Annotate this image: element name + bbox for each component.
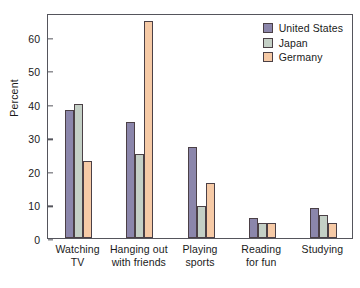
- y-tick-label: 40: [16, 100, 40, 112]
- x-category-label-line: Studying: [285, 243, 359, 256]
- legend-swatch-icon: [263, 38, 273, 48]
- bar[interactable]: [144, 21, 153, 238]
- bar[interactable]: [126, 122, 135, 238]
- bar[interactable]: [188, 147, 197, 238]
- bar[interactable]: [135, 154, 144, 238]
- y-tick-label: 60: [16, 33, 40, 45]
- bar[interactable]: [319, 215, 328, 239]
- legend-label: Japan: [279, 37, 308, 49]
- bar-group: [65, 15, 92, 238]
- bar[interactable]: [83, 161, 92, 238]
- y-tick-label: 0: [16, 234, 40, 246]
- bar[interactable]: [197, 206, 206, 238]
- legend-label: United States: [279, 22, 343, 34]
- legend-swatch-icon: [263, 23, 273, 33]
- y-tick-mark: [48, 239, 53, 240]
- bar[interactable]: [74, 104, 83, 238]
- bar[interactable]: [310, 208, 319, 238]
- bar[interactable]: [249, 218, 258, 238]
- plot-area: 0102030405060 United StatesJapanGermany: [47, 14, 353, 239]
- bar-group: [188, 15, 215, 238]
- y-tick-label: 20: [16, 167, 40, 179]
- legend-item[interactable]: United States: [263, 22, 343, 34]
- legend-item[interactable]: Japan: [263, 37, 343, 49]
- bar[interactable]: [206, 183, 215, 238]
- legend: United StatesJapanGermany: [263, 22, 343, 63]
- bar[interactable]: [328, 223, 337, 238]
- x-category-label-line: for fun: [224, 256, 298, 269]
- y-tick-label: 10: [16, 200, 40, 212]
- legend-item[interactable]: Germany: [263, 51, 343, 63]
- legend-label: Germany: [279, 51, 323, 63]
- y-tick-label: 30: [16, 133, 40, 145]
- bar[interactable]: [258, 223, 267, 238]
- legend-swatch-icon: [263, 52, 273, 62]
- y-tick-label: 50: [16, 66, 40, 78]
- bar-chart-figure: Percent 0102030405060 United StatesJapan…: [0, 0, 360, 288]
- bar[interactable]: [267, 223, 276, 238]
- x-category-label: Studying: [285, 243, 359, 256]
- bar-group: [126, 15, 153, 238]
- bar[interactable]: [65, 110, 74, 238]
